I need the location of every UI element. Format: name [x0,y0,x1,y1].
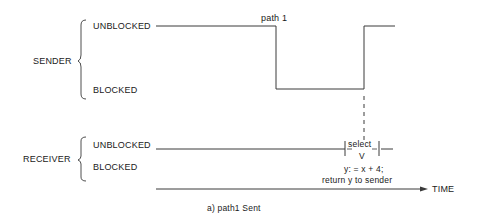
sender-brace [78,20,86,99]
action-line-2: return y to sender [322,176,392,185]
receiver-label: RECEIVER [23,155,71,164]
sender-waveform [156,26,395,89]
receiver-blocked-label: BLOCKED [93,163,137,172]
sender-unblocked-label: UNBLOCKED [93,22,151,31]
time-axis-label: TIME [432,185,454,194]
sender-blocked-label: BLOCKED [93,86,137,95]
time-axis-arrowhead [420,187,428,192]
action-line-1: y: = x + 4; [344,165,384,174]
receiver-unblocked-label: UNBLOCKED [93,141,151,150]
receiver-brace [78,137,86,181]
timing-diagram [0,0,478,222]
select-sub-label: V [359,152,365,161]
sender-label: SENDER [33,57,72,66]
figure-caption: a) path1 Sent [207,204,261,213]
select-label: select [348,140,371,149]
path1-event-label: path 1 [261,14,287,23]
